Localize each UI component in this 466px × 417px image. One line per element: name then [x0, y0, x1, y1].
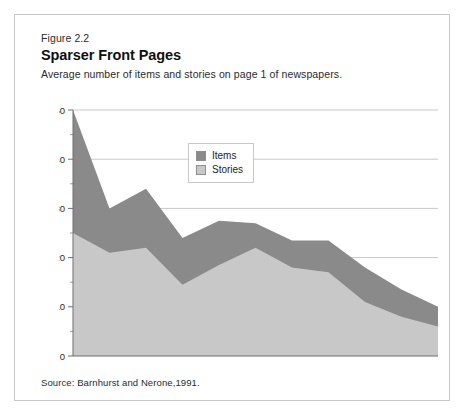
area-chart: 01020304050 1885189519051915192519351945…: [59, 96, 441, 361]
y-tick-label: 40: [59, 154, 65, 165]
chart-plot-area: 01020304050 1885189519051915192519351945…: [59, 96, 441, 361]
chart-y-tick-labels: 01020304050: [59, 105, 65, 362]
figure-number: Figure 2.2: [41, 31, 431, 45]
legend-swatch-items: [196, 151, 206, 161]
y-tick-label: 30: [59, 203, 65, 214]
y-tick-label: 50: [59, 105, 65, 116]
legend-label-items: Items: [212, 150, 236, 162]
y-tick-label: 20: [59, 252, 65, 263]
figure-subtitle: Average number of items and stories on p…: [41, 67, 431, 82]
chart-series-areas: [73, 110, 438, 356]
figure-card: Figure 2.2 Sparser Front Pages Average n…: [14, 14, 450, 401]
figure-source: Source: Barnhurst and Nerone,1991.: [41, 377, 200, 388]
legend-swatch-stories: [196, 165, 206, 175]
legend-item-items: Items: [196, 149, 243, 163]
chart-legend: Items Stories: [188, 143, 254, 183]
y-tick-label: 0: [60, 351, 65, 362]
y-tick-label: 10: [59, 301, 65, 312]
legend-label-stories: Stories: [212, 164, 243, 176]
figure-title: Sparser Front Pages: [41, 46, 431, 65]
legend-item-stories: Stories: [196, 163, 243, 177]
figure-header: Figure 2.2 Sparser Front Pages Average n…: [41, 31, 431, 82]
